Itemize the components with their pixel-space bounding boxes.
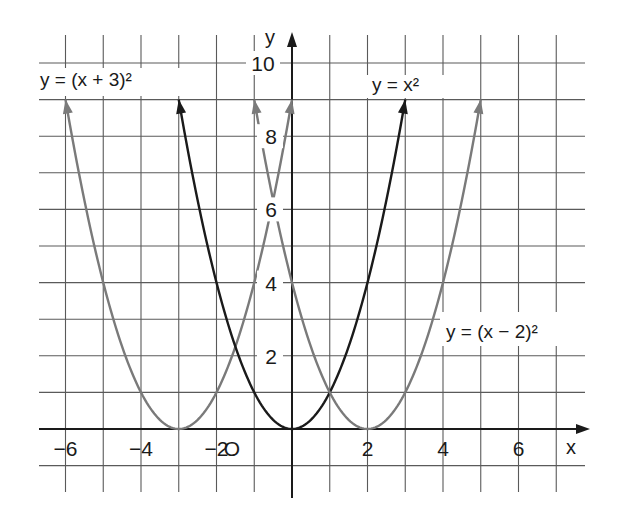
equation-label: y = x² (372, 74, 419, 95)
grid (39, 35, 585, 492)
x-axis-arrow-icon (576, 424, 590, 434)
arrowhead-icon (285, 100, 295, 115)
y-tick-label: 8 (265, 125, 277, 148)
x-tick-label: −6 (54, 437, 78, 460)
y-tick-label: 10 (251, 52, 274, 75)
x-tick-label: 2 (362, 437, 374, 460)
y-tick-label: 4 (265, 272, 277, 295)
curves (63, 100, 483, 429)
y-axis-arrow-icon (287, 32, 297, 47)
y-tick-label: 6 (265, 198, 277, 221)
parabola-chart: −6−4−2246246810Oxyy = (x + 3)²y = x²y = … (0, 0, 617, 515)
arrowhead-icon (398, 100, 408, 115)
arrowhead-icon (473, 100, 483, 115)
arrowhead-icon (252, 100, 262, 115)
y-tick-label: 2 (265, 345, 277, 368)
arrowhead-icon (63, 100, 73, 115)
axes (39, 32, 590, 498)
arrowhead-icon (176, 100, 186, 115)
y-axis-title: y (265, 26, 275, 48)
x-axis-title: x (566, 436, 576, 458)
x-tick-label: 6 (513, 437, 525, 460)
labels: −6−4−2246246810Oxyy = (x + 3)²y = x²y = … (38, 26, 585, 460)
equation-label: y = (x − 2)² (446, 321, 538, 342)
x-tick-label: −4 (129, 437, 153, 460)
x-tick-label: 4 (437, 437, 449, 460)
origin-label: O (224, 437, 240, 460)
equation-label: y = (x + 3)² (40, 69, 132, 90)
